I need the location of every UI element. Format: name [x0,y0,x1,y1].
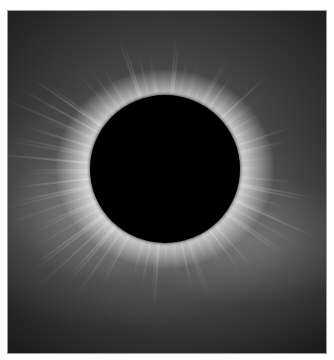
moon-disc [90,95,240,243]
eclipse-photo [7,10,327,354]
